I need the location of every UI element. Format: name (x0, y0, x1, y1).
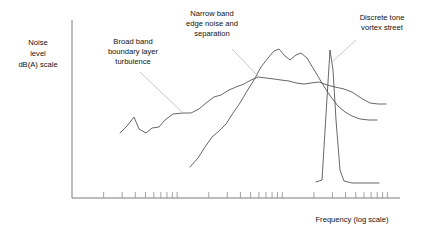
y-axis-label-line1: Noise (28, 38, 47, 47)
annotation-narrow-band: Narrow band edge noise and separation (186, 9, 238, 38)
curve-narrow-band (190, 49, 377, 167)
annotation-discrete-tone-line2: vortex street (361, 23, 404, 32)
curve-broad-band (120, 77, 386, 133)
annotation-narrow-band-line1: Narrow band (190, 9, 233, 18)
annotation-discrete-tone-line1: Discrete tone (360, 13, 405, 22)
x-axis-label: Frequency (log scale) (315, 215, 388, 224)
annotation-broad-band-line1: Broad band (113, 37, 152, 46)
annotation-discrete-tone: Discrete tone vortex street (360, 13, 405, 32)
annotation-broad-band: Broad band boundary layer turbulence (108, 37, 159, 66)
noise-spectrum-chart: Noise level dB(A) scale Frequency (log s… (0, 0, 421, 231)
y-axis-label: Noise level dB(A) scale (18, 38, 57, 69)
leader-line-broad-band (140, 72, 183, 113)
x-axis-ticks (104, 192, 388, 198)
y-axis-label-line2: level (30, 49, 46, 58)
leader-line-discrete-tone (332, 40, 356, 62)
annotation-broad-band-line2: boundary layer (108, 47, 159, 56)
annotation-broad-band-line3: turbulence (115, 57, 150, 66)
curve-discrete-tone (316, 50, 379, 183)
y-axis-label-line3: dB(A) scale (18, 60, 57, 69)
annotation-narrow-band-line3: separation (194, 29, 229, 38)
annotation-narrow-band-line2: edge noise and (186, 19, 238, 28)
leader-line-narrow-band (232, 49, 259, 77)
